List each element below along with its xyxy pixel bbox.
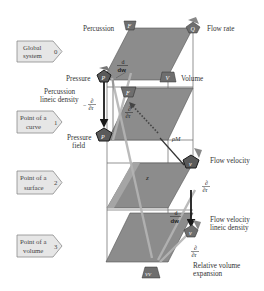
label-percussion: Percussion <box>83 25 115 33</box>
operator-partial-r-bottom: ∂ ∂r <box>191 245 199 258</box>
level-index: 0 <box>54 48 58 55</box>
node-pressure-field[interactable]: P <box>96 128 112 141</box>
label-flow-velocity-lineic-line2: lineic density <box>210 224 249 232</box>
svg-text:∂r: ∂r <box>126 113 131 119</box>
label-percussion-lineic-line2: lineic density <box>40 96 79 104</box>
level-tag-point-of-curve: Point of a curve 1 <box>17 111 62 133</box>
label-flow-velocity-lineic-line1: Flow velocity <box>210 216 250 224</box>
label-volume: Volume <box>181 75 203 83</box>
label-flow-rate: Flow rate <box>207 25 234 33</box>
svg-text:∂: ∂ <box>205 180 208 186</box>
label-flow-velocity: Flow velocity <box>210 157 250 165</box>
svg-text:dw: dw <box>118 67 127 73</box>
label-percussion-lineic-line1: Percussion <box>44 88 76 96</box>
label-relative-volume-line1: Relative volume <box>193 262 240 270</box>
node-percussion[interactable]: F <box>124 21 136 30</box>
node-symbol: P <box>101 75 106 81</box>
level-tag-line2: system <box>23 52 43 59</box>
level-index: 1 <box>54 119 57 126</box>
node-relative-volume-expansion[interactable]: VV <box>142 267 160 278</box>
level-tag-line1: Point of a <box>20 238 46 245</box>
svg-text:dw: dw <box>171 218 180 224</box>
level-tag-global-system: Global system 0 <box>17 41 62 62</box>
svg-text:d: d <box>175 210 178 216</box>
annotation-rho-m: ρM <box>171 135 181 142</box>
level-tag-line1: Global <box>23 44 42 51</box>
node-percussion-lineic-density[interactable]: F <box>121 87 136 97</box>
svg-text:∂r: ∂r <box>89 105 94 111</box>
tonti-diagram: Global system 0 Point of a curve 1 Point… <box>0 0 264 291</box>
level-tag-point-of-surface: Point of a surface 2 <box>17 171 62 194</box>
svg-text:d: d <box>122 59 125 65</box>
label-pressure-field-line1: Pressure <box>67 134 91 142</box>
svg-text:∂: ∂ <box>128 106 131 112</box>
node-volume[interactable]: V <box>160 72 176 82</box>
level-tag-point-of-volume: Point of a volume 3 <box>17 235 62 257</box>
node-symbol: Q <box>191 26 196 32</box>
label-relative-volume-line2: expansion <box>193 270 223 278</box>
svg-text:−: − <box>83 102 87 108</box>
annotation-z: z <box>145 174 149 182</box>
node-symbol: v <box>189 161 192 167</box>
label-pressure-field-line2: field <box>72 142 86 150</box>
operator-partial-r-right: ∂ ∂r <box>202 180 210 193</box>
level-tag-line2: volume <box>23 247 43 254</box>
level-tag-line1: Point of a <box>20 114 46 121</box>
svg-text:∂r: ∂r <box>192 252 197 258</box>
node-flow-velocity[interactable]: v <box>183 148 202 168</box>
svg-text:∂: ∂ <box>194 245 197 251</box>
plane-level-0 <box>103 28 193 80</box>
node-symbol: F <box>125 90 130 96</box>
level-tag-line2: surface <box>24 184 44 191</box>
node-symbol: P <box>100 134 105 140</box>
node-symbol: v <box>189 230 192 236</box>
level-tag-line2: curve <box>26 123 41 130</box>
svg-text:∂r: ∂r <box>203 187 208 193</box>
level-index: 2 <box>54 179 58 186</box>
label-pressure: Pressure <box>66 75 90 83</box>
operator-partial-r-left: − ∂ ∂r <box>83 98 96 111</box>
node-symbol: VV <box>145 272 152 277</box>
node-symbol: F <box>127 23 132 29</box>
rho-m-line <box>160 138 184 165</box>
level-index: 3 <box>54 243 58 250</box>
svg-text:∂: ∂ <box>91 98 94 104</box>
level-tag-line1: Point of a <box>20 174 46 181</box>
node-flow-rate[interactable]: Q <box>186 17 200 33</box>
